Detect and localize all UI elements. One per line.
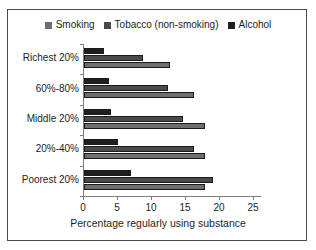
bar-tobacco [84,55,143,61]
y-tick [80,105,83,106]
category-label: 60%-80% [36,83,79,94]
bar-alcohol [84,48,104,54]
category-label: Poorest 20% [22,174,79,185]
category-axis-labels: Richest 20%60%-80%Middle 20%20%-40%Poore… [8,44,79,196]
x-tick-label: 25 [247,202,258,213]
x-tick-label: 5 [114,202,120,213]
y-tick [80,135,83,136]
legend-swatch-tobacco [104,22,111,29]
plot-area: 0510152025 [83,44,261,196]
bar-tobacco [84,116,183,122]
legend-item-tobacco: Tobacco (non-smoking) [104,20,219,30]
category-label: 20%-40% [36,143,79,154]
bar-smoking [84,184,205,190]
x-tick [219,196,220,200]
x-tick [185,196,186,200]
bar-tobacco [84,177,213,183]
x-tick [151,196,152,200]
legend-swatch-alcohol [228,22,235,29]
x-tick-label: 10 [145,202,156,213]
legend-label-tobacco: Tobacco (non-smoking) [115,20,219,30]
chart-frame: Smoking Tobacco (non-smoking) Alcohol Ri… [7,9,307,241]
legend-label-smoking: Smoking [56,20,95,30]
x-tick-label: 20 [213,202,224,213]
bar-tobacco [84,85,168,91]
category-label: Richest 20% [23,52,79,63]
bar-tobacco [84,146,194,152]
legend-item-alcohol: Alcohol [228,20,272,30]
x-tick-label: 15 [179,202,190,213]
x-axis-line [83,196,261,197]
bar-alcohol [84,78,109,84]
x-tick [253,196,254,200]
y-tick [80,74,83,75]
bar-alcohol [84,170,131,176]
bar-smoking [84,62,170,68]
legend-label-alcohol: Alcohol [239,20,272,30]
category-label: Middle 20% [27,113,79,124]
y-tick [80,166,83,167]
x-tick [83,196,84,200]
bar-smoking [84,123,205,129]
y-tick [80,44,83,45]
y-tick [80,196,83,197]
x-tick-label: 0 [80,202,86,213]
legend-swatch-smoking [45,22,52,29]
bar-alcohol [84,109,111,115]
bar-alcohol [84,139,118,145]
x-axis-title: Percentage regularly using substance [8,217,308,229]
legend-item-smoking: Smoking [45,20,95,30]
x-tick [117,196,118,200]
bar-smoking [84,153,205,159]
bar-smoking [84,92,194,98]
chart-legend: Smoking Tobacco (non-smoking) Alcohol [8,20,308,30]
